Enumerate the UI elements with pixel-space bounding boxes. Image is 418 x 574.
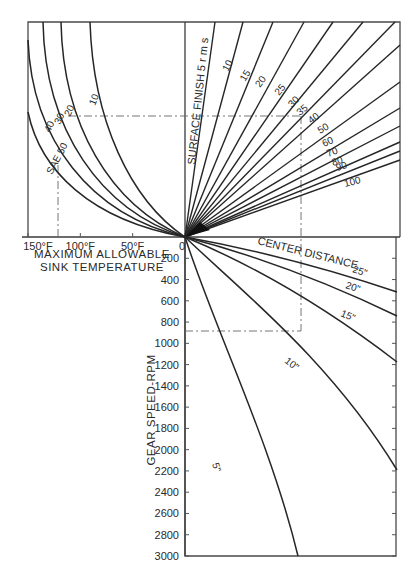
rpm-tick-label: 1600 xyxy=(155,401,179,413)
rpm-tick-label: 2600 xyxy=(155,507,179,519)
rpm-tick-label: 400 xyxy=(161,274,179,286)
rpm-tick-label: 2000 xyxy=(155,444,179,456)
rpm-tick-label: 1800 xyxy=(155,422,179,434)
sink-temp-label-line1: MAXIMUM ALLOWABLE xyxy=(34,248,170,260)
rpm-tick-label: 600 xyxy=(161,295,179,307)
rpm-tick-label: 1000 xyxy=(155,337,179,349)
rpm-axis-ticks: 2004006008001000120014001600180020002200… xyxy=(155,252,189,562)
center-distance-series-label: 5" xyxy=(210,461,223,473)
example-guide-lines xyxy=(58,116,301,331)
surface-finish-rays xyxy=(185,22,400,237)
nomogram-chart: 150°F100°F50°F0 200400600800100012001400… xyxy=(0,0,418,574)
rpm-tick-label: 1400 xyxy=(155,380,179,392)
center-distance-series-label: 15" xyxy=(339,308,357,324)
sae-curve xyxy=(28,40,185,237)
rpm-tick-label: 2800 xyxy=(155,529,179,541)
rpm-tick-label: 3000 xyxy=(155,550,179,562)
sink-temp-label-line2: SINK TEMPERATURE xyxy=(40,261,164,273)
rpm-tick-label: 2200 xyxy=(155,465,179,477)
surface-finish-series-label: 90 xyxy=(335,159,349,173)
surface-finish-series-label: 25 xyxy=(272,81,288,97)
rpm-tick-label: 2400 xyxy=(155,486,179,498)
surface-finish-series-label: 20 xyxy=(253,73,269,89)
center-distance-curve xyxy=(185,237,397,362)
center-distance-series-label: 25" xyxy=(351,263,369,278)
rpm-tick-label: 1200 xyxy=(155,359,179,371)
chart-labels: MAXIMUM ALLOWABLE SINK TEMPERATURE GEAR … xyxy=(34,36,359,465)
surface-finish-series-label: 15 xyxy=(237,67,252,83)
sae-curve xyxy=(90,22,185,237)
temp-tick-label: 0 xyxy=(179,240,185,252)
frames xyxy=(22,22,400,556)
surface-finish-label: SURFACE FINISH 5 r m s xyxy=(185,36,210,165)
gear-speed-label: GEAR SPEED-RPM xyxy=(145,354,157,465)
surface-finish-ray xyxy=(185,151,400,237)
surface-finish-ray xyxy=(185,126,400,237)
surface-finish-ray xyxy=(185,45,400,237)
center-distance-series-label: 10" xyxy=(283,355,302,373)
center-distance-curves xyxy=(185,237,397,556)
rpm-tick-label: 800 xyxy=(161,316,179,328)
sae-curve xyxy=(43,22,185,237)
surface-finish-series-label: 100 xyxy=(343,174,362,189)
lower-frame xyxy=(185,237,396,556)
